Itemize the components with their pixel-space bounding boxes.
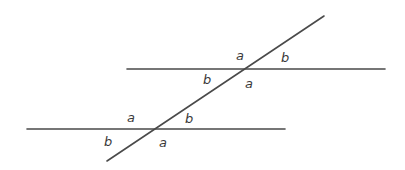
upper-angle-label-below-left: b [203,72,211,87]
lower-angle-label-above-left: a [127,110,135,125]
upper-angle-label-below-right: a [245,76,253,91]
upper-angle-label-above-left: a [236,48,244,63]
upper-angle-label-above-right: b [281,50,289,65]
lower-angle-label-below-right: a [159,135,167,150]
lower-angle-label-above-right: b [185,111,193,126]
diagram-canvas: a b b a a b b a [0,0,405,170]
lower-intersection-labels: a b b a [104,110,193,150]
parallel-lines-transversal-diagram: a b b a a b b a [0,0,405,170]
transversal-line [107,16,324,161]
lower-angle-label-below-left: b [104,134,112,149]
